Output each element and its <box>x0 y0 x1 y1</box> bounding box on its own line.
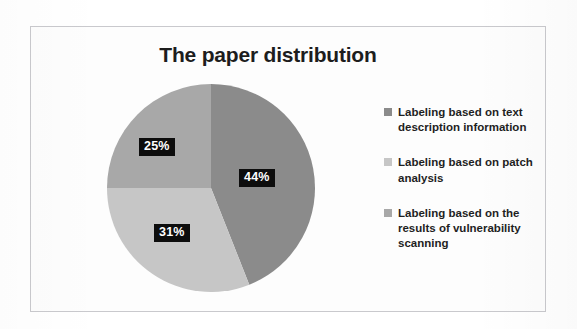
pie-svg <box>106 83 316 293</box>
pie-slice-label-2: 25% <box>139 138 175 156</box>
legend-item-1[interactable]: Labeling based on patch analysis <box>384 155 534 185</box>
legend-item-0[interactable]: Labeling based on text description infor… <box>384 105 534 135</box>
pie-slice-2[interactable] <box>107 84 211 188</box>
legend-item-2[interactable]: Labeling based on the results of vulnera… <box>384 206 534 252</box>
pie-circle <box>106 83 316 293</box>
chart-legend: Labeling based on text description infor… <box>384 105 534 271</box>
legend-swatch-icon-1 <box>384 158 392 166</box>
page-canvas: The paper distribution 44% 31% 25% Label… <box>0 0 577 329</box>
legend-label-2: Labeling based on the results of vulnera… <box>398 206 534 252</box>
pie-chart: 44% 31% 25% <box>106 83 316 293</box>
pie-slice-label-1: 31% <box>154 224 190 242</box>
pie-slice-label-0: 44% <box>239 169 275 187</box>
legend-swatch-icon-0 <box>384 108 392 116</box>
legend-label-1: Labeling based on patch analysis <box>398 155 534 185</box>
legend-swatch-icon-2 <box>384 209 392 217</box>
legend-label-0: Labeling based on text description infor… <box>398 105 534 135</box>
chart-title: The paper distribution <box>31 43 545 67</box>
chart-frame: The paper distribution 44% 31% 25% Label… <box>30 26 546 312</box>
